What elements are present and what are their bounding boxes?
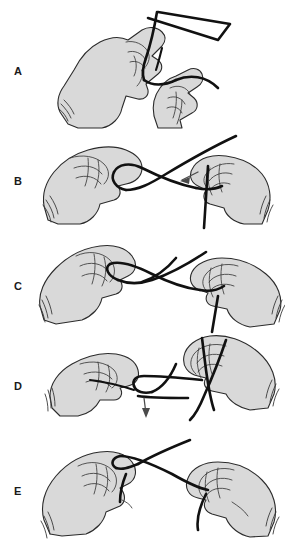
panel-d: D bbox=[0, 336, 285, 440]
panel-e-illustration bbox=[30, 440, 285, 541]
panel-label-e: E bbox=[14, 486, 22, 497]
panel-b: B bbox=[0, 128, 285, 232]
panel-label-d: D bbox=[14, 381, 22, 392]
left-hand-a bbox=[58, 28, 165, 128]
panel-label-a: A bbox=[14, 66, 22, 77]
figure-root: A bbox=[0, 0, 285, 541]
left-hand-b bbox=[43, 147, 142, 224]
left-hand-d bbox=[45, 353, 139, 416]
panel-c: C bbox=[0, 232, 285, 336]
panel-c-illustration bbox=[30, 232, 285, 336]
panel-b-illustration bbox=[30, 128, 285, 232]
panel-a-illustration bbox=[30, 0, 285, 128]
direction-arrow-d bbox=[142, 398, 150, 418]
right-hand-e bbox=[186, 462, 279, 537]
left-hand-c bbox=[39, 245, 135, 324]
panel-label-c: C bbox=[14, 281, 22, 292]
panel-label-b: B bbox=[14, 176, 22, 187]
panel-a: A bbox=[0, 0, 285, 128]
panel-d-illustration bbox=[30, 336, 285, 440]
right-hand-c bbox=[190, 258, 285, 327]
right-hand-d bbox=[184, 336, 279, 410]
panel-e: E bbox=[0, 440, 285, 541]
